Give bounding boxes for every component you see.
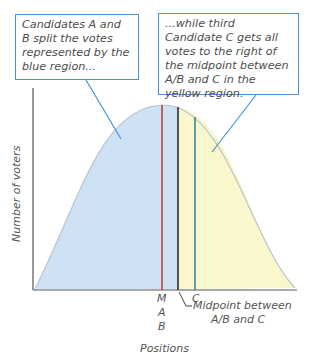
y-axis-label: Number of voters: [10, 146, 23, 242]
marker-b-label: B: [158, 320, 166, 333]
midpoint-label-line2: A/B and C: [211, 313, 265, 326]
x-axis-label: Positions: [140, 342, 189, 355]
left-callout-pointer: [86, 80, 121, 139]
callout-ab: Candidates A and B split the votes repre…: [15, 14, 139, 80]
marker-m-label: M: [157, 292, 167, 305]
right-callout-pointer: [212, 95, 256, 152]
midpoint-leader: [179, 292, 192, 306]
marker-a-label: A: [158, 306, 166, 319]
midpoint-label-line1: Midpoint between: [193, 299, 292, 312]
blue-region: [35, 105, 178, 289]
callout-c: ...while third Candidate C gets all vote…: [158, 13, 299, 95]
